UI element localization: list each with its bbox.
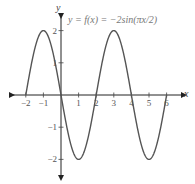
svg-text:−2: −2 (47, 154, 57, 164)
svg-text:5: 5 (147, 98, 152, 108)
equation-label: y = f(x) = −2sin(πx/2) (68, 14, 157, 25)
svg-text:3: 3 (112, 98, 117, 108)
svg-text:−2: −2 (21, 98, 31, 108)
svg-text:−1: −1 (47, 122, 57, 132)
svg-text:1: 1 (76, 98, 81, 108)
svg-text:−1: −1 (39, 98, 49, 108)
sine-chart: −2−1123456−2−112 (0, 0, 195, 184)
x-axis-label: x (184, 88, 188, 99)
svg-text:2: 2 (53, 26, 58, 36)
y-axis-label: y (56, 2, 60, 13)
